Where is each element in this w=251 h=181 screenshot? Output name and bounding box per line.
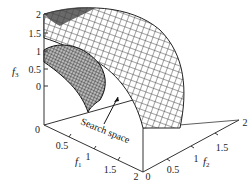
y-tick-2: 2 <box>243 117 248 128</box>
x-axis-label: f1 <box>75 155 82 169</box>
chart-3d-search-space: 2 1.5 1 0.5 0 0 0.5 1 1.5 2 0 0.5 1 1.5 … <box>0 0 251 181</box>
z-tick-0-5: 0.5 <box>29 64 42 75</box>
y-axis-label: f2 <box>203 155 210 169</box>
y-tick-0: 0 <box>146 171 151 181</box>
z-axis-label: f3 <box>12 65 19 79</box>
x-tick-2: 2 <box>134 171 139 181</box>
z-tick-2: 2 <box>36 9 41 20</box>
z-tick-1: 1 <box>36 46 41 57</box>
x-tick-0: 0 <box>35 124 40 135</box>
z-tick-1-5: 1.5 <box>29 28 42 39</box>
x-tick-1: 1 <box>86 151 91 162</box>
z-tick-0: 0 <box>36 81 41 92</box>
y-ticks <box>167 133 218 161</box>
arrow-head-icon <box>114 97 119 102</box>
y-tick-0-5: 0.5 <box>167 164 180 175</box>
y-tick-1-5: 1.5 <box>216 142 229 153</box>
x-tick-1-5: 1.5 <box>104 164 117 175</box>
x-tick-0-5: 0.5 <box>56 140 69 151</box>
plot-canvas: 2 1.5 1 0.5 0 0 0.5 1 1.5 2 0 0.5 1 1.5 … <box>0 0 251 181</box>
y-tick-1: 1 <box>194 153 199 164</box>
